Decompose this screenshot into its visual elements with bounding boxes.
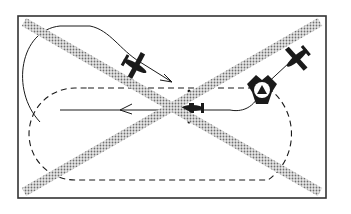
flight-pattern-figure xyxy=(0,0,351,214)
